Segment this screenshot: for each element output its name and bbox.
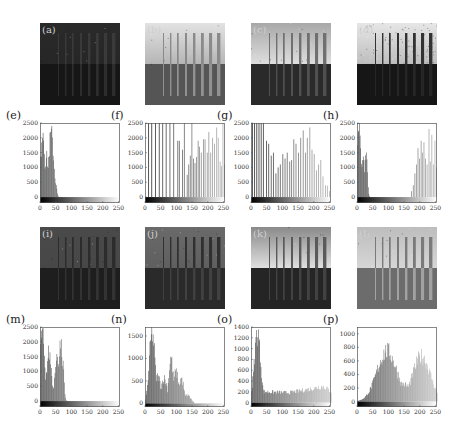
image-panel: (d) bbox=[357, 23, 437, 105]
panel-label: (c) bbox=[253, 24, 266, 35]
panel-label: (b) bbox=[147, 24, 161, 35]
svg-text:0: 0 bbox=[139, 193, 143, 200]
svg-text:250: 250 bbox=[218, 408, 230, 415]
image-panel: (b) bbox=[145, 23, 225, 105]
svg-text:1200: 1200 bbox=[234, 334, 249, 341]
svg-text:50: 50 bbox=[52, 408, 60, 415]
panel-label: (d) bbox=[359, 24, 373, 35]
svg-text:50: 50 bbox=[369, 204, 377, 211]
svg-text:1500: 1500 bbox=[234, 149, 249, 156]
svg-text:250: 250 bbox=[324, 204, 336, 211]
svg-text:250: 250 bbox=[113, 408, 125, 415]
svg-text:1000: 1000 bbox=[340, 163, 355, 170]
panel-label: (i) bbox=[42, 228, 53, 239]
svg-text:1500: 1500 bbox=[128, 149, 143, 156]
svg-text:150: 150 bbox=[81, 408, 93, 415]
svg-text:2500: 2500 bbox=[23, 323, 38, 330]
svg-text:1500: 1500 bbox=[128, 332, 143, 339]
svg-text:2500: 2500 bbox=[340, 119, 355, 126]
svg-text:2500: 2500 bbox=[23, 119, 38, 126]
histogram-e: 05001000150020002500050100150200250(e) bbox=[40, 123, 120, 203]
svg-text:250: 250 bbox=[430, 204, 442, 211]
svg-text:0: 0 bbox=[351, 193, 355, 200]
image-panel: (k) bbox=[251, 227, 331, 309]
svg-text:0: 0 bbox=[249, 204, 253, 211]
histogram-g: 05001000150020002500050100150200250(g) bbox=[251, 123, 331, 203]
svg-text:800: 800 bbox=[238, 355, 250, 362]
svg-text:400: 400 bbox=[344, 370, 356, 377]
svg-text:50: 50 bbox=[263, 204, 271, 211]
panel-label: (e) bbox=[6, 109, 21, 122]
histogram-f: 05001000150020002500050100150200250(f) bbox=[145, 123, 225, 203]
panel-label: (g) bbox=[217, 109, 233, 122]
svg-text:600: 600 bbox=[238, 366, 250, 373]
image-panel: (i) bbox=[40, 227, 120, 309]
svg-text:200: 200 bbox=[344, 384, 356, 391]
svg-text:0: 0 bbox=[139, 399, 143, 406]
svg-text:200: 200 bbox=[238, 388, 250, 395]
svg-text:200: 200 bbox=[97, 408, 109, 415]
svg-text:150: 150 bbox=[186, 204, 198, 211]
svg-text:500: 500 bbox=[344, 178, 356, 185]
panel-label: (p) bbox=[323, 313, 339, 326]
svg-text:0: 0 bbox=[38, 204, 42, 211]
svg-text:100: 100 bbox=[383, 204, 395, 211]
svg-text:250: 250 bbox=[430, 408, 442, 415]
svg-text:150: 150 bbox=[398, 204, 410, 211]
svg-text:2000: 2000 bbox=[234, 134, 249, 141]
svg-text:200: 200 bbox=[414, 408, 426, 415]
svg-text:150: 150 bbox=[398, 408, 410, 415]
panel-label: (l) bbox=[359, 228, 370, 239]
svg-text:50: 50 bbox=[157, 408, 165, 415]
svg-text:100: 100 bbox=[277, 204, 289, 211]
panel-label: (n) bbox=[111, 313, 127, 326]
svg-text:2000: 2000 bbox=[23, 338, 38, 345]
svg-text:2000: 2000 bbox=[340, 134, 355, 141]
panel-label: (o) bbox=[217, 313, 232, 326]
svg-text:200: 200 bbox=[308, 408, 320, 415]
svg-text:1000: 1000 bbox=[234, 163, 249, 170]
svg-text:200: 200 bbox=[414, 204, 426, 211]
svg-text:0: 0 bbox=[38, 408, 42, 415]
svg-text:0: 0 bbox=[34, 193, 38, 200]
svg-text:1500: 1500 bbox=[23, 149, 38, 156]
svg-text:0: 0 bbox=[245, 193, 249, 200]
svg-text:200: 200 bbox=[202, 204, 214, 211]
svg-text:50: 50 bbox=[157, 204, 165, 211]
svg-text:600: 600 bbox=[344, 357, 356, 364]
svg-text:50: 50 bbox=[263, 408, 271, 415]
image-panel: (l) bbox=[357, 227, 437, 309]
panel-label: (m) bbox=[6, 313, 25, 326]
panel-label: (h) bbox=[323, 109, 339, 122]
histogram-o: 0200400600800100012001400050100150200250… bbox=[251, 327, 331, 407]
svg-text:0: 0 bbox=[143, 204, 147, 211]
svg-text:1000: 1000 bbox=[340, 330, 355, 337]
svg-text:1500: 1500 bbox=[340, 149, 355, 156]
svg-text:100: 100 bbox=[171, 204, 183, 211]
svg-text:250: 250 bbox=[324, 408, 336, 415]
svg-text:500: 500 bbox=[238, 178, 250, 185]
svg-text:100: 100 bbox=[277, 408, 289, 415]
svg-text:50: 50 bbox=[52, 204, 60, 211]
svg-text:0: 0 bbox=[143, 408, 147, 415]
svg-text:100: 100 bbox=[66, 408, 78, 415]
svg-text:200: 200 bbox=[97, 204, 109, 211]
svg-text:150: 150 bbox=[292, 408, 304, 415]
image-panel: (j) bbox=[145, 227, 225, 309]
histogram-n: 050010001500050100150200250(n) bbox=[145, 327, 225, 407]
svg-text:0: 0 bbox=[355, 204, 359, 211]
panel-label: (j) bbox=[147, 228, 158, 239]
svg-text:1000: 1000 bbox=[234, 345, 249, 352]
histogram-m: 05001000150020002500050100150200250(m) bbox=[40, 327, 120, 407]
svg-text:2000: 2000 bbox=[128, 134, 143, 141]
svg-text:1400: 1400 bbox=[234, 323, 249, 330]
svg-text:1500: 1500 bbox=[23, 353, 38, 360]
image-panel: (a) bbox=[40, 23, 120, 105]
histogram-p: 02004006008001000050100150200250(p) bbox=[357, 327, 437, 407]
svg-text:500: 500 bbox=[27, 178, 39, 185]
svg-text:1000: 1000 bbox=[128, 354, 143, 361]
panel-label: (f) bbox=[111, 109, 124, 122]
svg-text:500: 500 bbox=[27, 382, 39, 389]
svg-text:100: 100 bbox=[66, 204, 78, 211]
svg-text:200: 200 bbox=[308, 204, 320, 211]
